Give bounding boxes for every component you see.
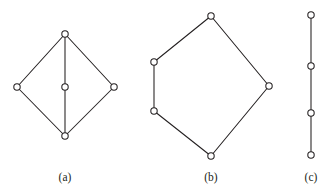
graph-vertex-c-v2 <box>308 63 314 69</box>
panel-b-caption: (b) <box>204 171 218 184</box>
graph-vertex-b-bottom <box>208 153 214 159</box>
graph-edge <box>65 34 114 87</box>
panel-c-caption: (c) <box>305 171 318 184</box>
graph-vertex-b-upper-left <box>151 59 157 65</box>
figure-root: (a)(b)(c) <box>0 0 329 196</box>
graph-edge <box>65 87 114 136</box>
panel-a: (a) <box>14 31 117 184</box>
graph-edge <box>154 111 211 156</box>
graph-edge <box>211 86 269 156</box>
panel-b: (b) <box>151 13 272 184</box>
graph-vertex-a-center <box>62 84 68 90</box>
panel-b-edges <box>154 16 269 156</box>
graph-edge <box>154 16 211 62</box>
graph-figure-canvas: (a)(b)(c) <box>0 0 329 196</box>
graph-vertex-a-top <box>62 31 68 37</box>
graph-vertex-c-v1 <box>308 12 314 18</box>
graph-vertex-a-left <box>14 84 20 90</box>
graph-vertex-b-right <box>266 83 272 89</box>
graph-edge <box>211 16 269 86</box>
graph-vertex-b-lower-left <box>151 108 157 114</box>
graph-edge <box>17 87 65 136</box>
panel-b-vertices <box>151 13 272 159</box>
graph-vertex-b-top <box>208 13 214 19</box>
panels-layer: (a)(b)(c) <box>14 12 318 184</box>
panel-a-caption: (a) <box>59 171 72 184</box>
graph-vertex-a-bottom <box>62 133 68 139</box>
graph-vertex-c-v3 <box>308 110 314 116</box>
panel-c: (c) <box>305 12 318 184</box>
graph-vertex-a-right <box>111 84 117 90</box>
graph-edge <box>17 34 65 87</box>
graph-vertex-c-v4 <box>308 152 314 158</box>
